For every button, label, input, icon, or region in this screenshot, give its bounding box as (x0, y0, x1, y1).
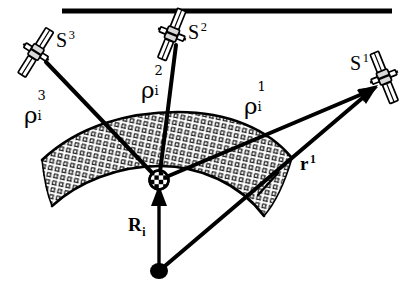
satellite-2-base: S (188, 21, 199, 43)
range-1-base: ρ (244, 93, 258, 119)
range-1-subscript: i (258, 100, 262, 113)
receiver-position-label: Ri (128, 215, 146, 239)
satellite-1-base: S (350, 52, 361, 74)
range-3-label: ρ3i (24, 102, 47, 127)
satellite-2-label: S2 (188, 21, 207, 42)
range-2-subscript: i (155, 84, 159, 97)
satellite-1-label: S1 (350, 52, 369, 73)
receiver-position-vector (151, 185, 167, 271)
range-2-base: ρ (141, 77, 155, 103)
satellite-3-superscript: 3 (69, 28, 75, 42)
range-3-base: ρ (24, 102, 38, 128)
receiver-position-base: R (128, 214, 142, 235)
satellite-position-base: r (300, 153, 308, 174)
range-2-superscript: 2 (155, 64, 163, 77)
satellite-3-label: S3 (56, 29, 75, 50)
range-3-indices: 3i (38, 102, 47, 123)
satellite-position-label: r1 (300, 154, 316, 173)
range-1-superscript: 1 (258, 80, 266, 93)
receiver-position-subscript: i (142, 226, 145, 239)
satellite-3-base: S (56, 29, 67, 51)
range-1-indices: 1i (258, 93, 267, 114)
satellite-2-superscript: 2 (201, 20, 207, 34)
receiver-icon (150, 171, 169, 190)
origin-dot-icon (150, 263, 168, 279)
range-3-subscript: i (38, 109, 42, 122)
range-2-indices: 2i (155, 77, 164, 98)
range-2-label: ρ2i (141, 77, 164, 102)
figure-root: S3 S2 S1 ρ3i ρ2i ρ1i Ri r1 (0, 0, 409, 292)
satellite-position-superscript: 1 (310, 153, 316, 166)
range-1-label: ρ1i (244, 93, 267, 118)
range-3-superscript: 3 (38, 89, 46, 102)
satellite-1-superscript: 1 (363, 51, 369, 65)
